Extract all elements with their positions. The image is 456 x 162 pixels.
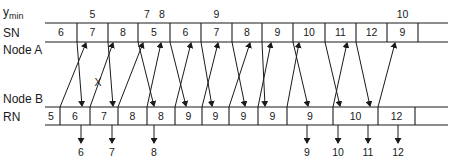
- sn-rn-diagram: ymin SN Node A Node B RN 578910 67856789…: [0, 0, 456, 162]
- ymin-label: ymin: [3, 5, 24, 21]
- output-value: 8: [151, 146, 157, 158]
- down-arrow: [138, 42, 154, 106]
- sn-cell-value: 8: [244, 26, 250, 38]
- up-arrow: [378, 43, 395, 107]
- rn-cell-value: 5: [48, 110, 54, 122]
- crossed-mark: X: [94, 76, 101, 88]
- rn-cell-value: 8: [158, 110, 164, 122]
- sn-cell-value: 8: [120, 26, 126, 38]
- rn-cell-value: 6: [72, 110, 78, 122]
- rn-cell-value: 12: [391, 110, 403, 122]
- ymin-values: 578910: [90, 8, 409, 20]
- sn-cell-value: 7: [90, 26, 96, 38]
- rn-cell-value: 10: [350, 110, 362, 122]
- rn-cell-value: 9: [307, 110, 313, 122]
- sn-cell-value: 6: [183, 26, 189, 38]
- sn-label: SN: [3, 26, 20, 40]
- transfer-arrows: X: [60, 42, 395, 107]
- down-arrow: [356, 42, 370, 106]
- down-arrow: [293, 42, 308, 106]
- node-b-label: Node B: [3, 92, 43, 106]
- output-value: 6: [78, 146, 84, 158]
- up-arrow: [90, 43, 113, 107]
- rn-cell-value: 7: [101, 110, 107, 122]
- output-arrows: 6789101112: [78, 125, 404, 158]
- sn-cell-value: 11: [335, 26, 346, 38]
- down-arrow: [232, 42, 245, 106]
- output-value: 7: [109, 146, 115, 158]
- sn-cell-value: 9: [275, 26, 281, 38]
- down-arrow: [325, 42, 340, 106]
- down-arrow: [77, 42, 82, 106]
- up-arrow: [118, 43, 143, 107]
- ymin-value: 10: [397, 8, 409, 20]
- sn-cell-value: 9: [400, 26, 406, 38]
- rn-cell-value: 9: [213, 110, 219, 122]
- sn-cell-value: 6: [58, 26, 64, 38]
- up-arrow: [147, 43, 161, 107]
- up-arrow: [229, 43, 250, 107]
- output-value: 11: [363, 146, 374, 158]
- output-value: 9: [304, 146, 310, 158]
- sn-row: 678567891011129: [45, 23, 448, 42]
- sn-cell-value: 5: [151, 26, 157, 38]
- rn-cell-value: 8: [130, 110, 136, 122]
- ymin-value: 8: [159, 8, 165, 20]
- output-value: 12: [392, 146, 404, 158]
- rn-cell-value: 9: [241, 110, 247, 122]
- up-arrow: [60, 43, 86, 107]
- sn-cell-value: 12: [366, 26, 378, 38]
- up-arrow: [202, 43, 218, 107]
- ymin-value: 9: [214, 8, 220, 20]
- ymin-value: 5: [90, 8, 96, 20]
- up-arrow: [175, 43, 191, 107]
- ymin-value: 7: [144, 8, 150, 20]
- rn-row: 56788999991012: [45, 107, 448, 125]
- rn-cell-value: 9: [270, 110, 276, 122]
- up-arrow: [333, 43, 347, 107]
- up-arrow: [287, 43, 299, 107]
- rn-cell-value: 9: [186, 110, 192, 122]
- rn-label: RN: [3, 110, 20, 124]
- sn-cell-value: 7: [214, 26, 220, 38]
- sn-cell-value: 10: [303, 26, 315, 38]
- down-arrow: [108, 42, 113, 106]
- node-a-label: Node A: [3, 43, 42, 57]
- output-value: 10: [332, 146, 344, 158]
